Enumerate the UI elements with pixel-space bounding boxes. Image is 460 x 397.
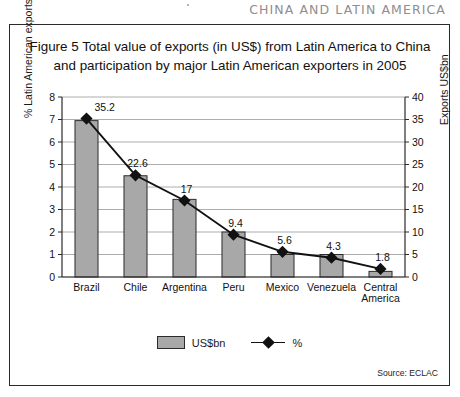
svg-text:0: 0 <box>412 271 418 283</box>
svg-text:9.4: 9.4 <box>228 217 243 229</box>
legend-item-bars: US$bn <box>157 336 226 349</box>
svg-text:America: America <box>361 292 400 304</box>
svg-text:40: 40 <box>412 91 424 103</box>
legend-bar-swatch <box>157 336 185 349</box>
svg-text:35.2: 35.2 <box>95 101 116 113</box>
chart-plot-area: 012345678051015202530354035.222.6179.45.… <box>10 87 449 327</box>
legend-line-marker <box>251 338 285 348</box>
chart-svg: 012345678051015202530354035.222.6179.45.… <box>10 87 449 327</box>
page-header: CHINA AND LATIN AMERICA <box>0 0 460 26</box>
legend-bar-label: US$bn <box>192 337 226 349</box>
svg-text:2: 2 <box>49 226 55 238</box>
legend-line-label: % <box>292 337 302 349</box>
svg-text:8: 8 <box>49 91 55 103</box>
svg-text:4: 4 <box>49 181 55 193</box>
diamond-icon <box>263 336 276 349</box>
svg-text:3: 3 <box>49 203 55 215</box>
svg-text:15: 15 <box>412 203 424 215</box>
svg-text:Venezuela: Venezuela <box>307 281 356 293</box>
figure-container: Figure 5 Total value of exports (in US$)… <box>9 24 450 386</box>
source-note: Source: ECLAC <box>377 368 438 378</box>
svg-text:Chile: Chile <box>124 281 148 293</box>
svg-text:22.6: 22.6 <box>127 157 148 169</box>
svg-text:25: 25 <box>412 158 424 170</box>
svg-text:Brazil: Brazil <box>73 281 99 293</box>
svg-text:1: 1 <box>49 248 55 260</box>
svg-text:5.6: 5.6 <box>277 234 292 246</box>
svg-text:4.3: 4.3 <box>326 240 341 252</box>
svg-text:17: 17 <box>181 183 193 195</box>
svg-text:5: 5 <box>412 248 418 260</box>
svg-text:5: 5 <box>49 158 55 170</box>
figure-caption: Figure 5 Total value of exports (in US$)… <box>24 37 436 75</box>
svg-text:7: 7 <box>49 113 55 125</box>
svg-text:30: 30 <box>412 136 424 148</box>
running-head: CHINA AND LATIN AMERICA <box>249 2 446 17</box>
svg-text:Mexico: Mexico <box>266 281 299 293</box>
svg-text:6: 6 <box>49 136 55 148</box>
svg-text:1.8: 1.8 <box>375 251 390 263</box>
svg-text:10: 10 <box>412 226 424 238</box>
svg-text:Argentina: Argentina <box>162 281 207 293</box>
legend-item-line: % <box>251 337 302 349</box>
chart-legend: US$bn % <box>10 336 449 349</box>
svg-text:0: 0 <box>49 271 55 283</box>
header-dot <box>187 4 189 6</box>
svg-text:35: 35 <box>412 113 424 125</box>
svg-text:20: 20 <box>412 181 424 193</box>
svg-text:Peru: Peru <box>222 281 244 293</box>
